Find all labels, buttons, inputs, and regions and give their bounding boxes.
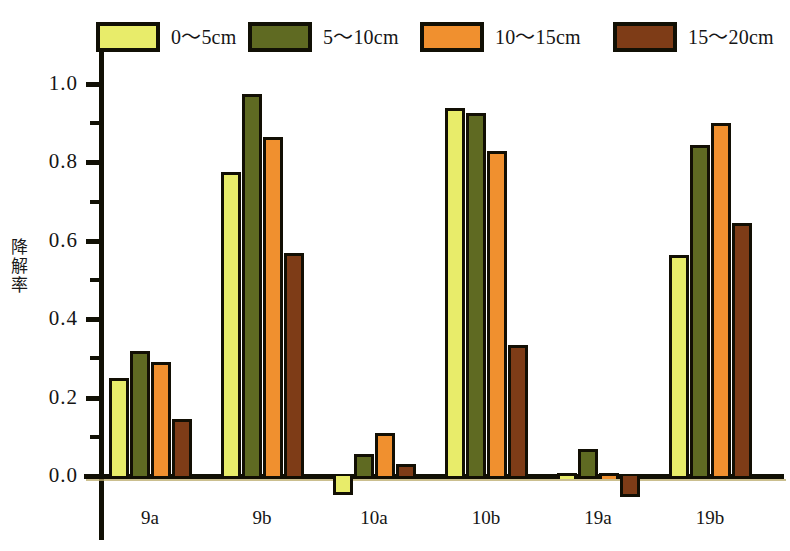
y-axis-tick-label-1.0: 1.0 bbox=[22, 73, 78, 94]
x-axis-tick-label-9a: 9a bbox=[110, 508, 190, 527]
bar bbox=[690, 145, 710, 479]
x-axis-tick-label-10a: 10a bbox=[334, 508, 414, 527]
y-axis-minor-tick bbox=[90, 121, 103, 125]
bar bbox=[487, 151, 507, 479]
x-axis-tick-label-9b: 9b bbox=[222, 508, 302, 527]
bar bbox=[151, 362, 171, 479]
bar bbox=[669, 255, 689, 479]
bar bbox=[172, 419, 192, 479]
y-axis-tick-label-0.0: 0.0 bbox=[22, 465, 78, 486]
bar bbox=[620, 476, 640, 497]
y-axis-minor-tick bbox=[90, 200, 103, 204]
bar bbox=[557, 473, 577, 479]
y-axis-tick-label-0.2: 0.2 bbox=[22, 387, 78, 408]
y-axis-tick-0.0 bbox=[86, 474, 104, 479]
bar bbox=[284, 253, 304, 479]
bar bbox=[242, 94, 262, 479]
y-axis-tick-label-0.8: 0.8 bbox=[22, 151, 78, 172]
x-axis-tick-label-19b: 19b bbox=[670, 508, 750, 527]
x-axis-tick-label-19a: 19a bbox=[558, 508, 638, 527]
y-axis-minor-tick bbox=[90, 435, 103, 439]
bar bbox=[508, 345, 528, 479]
bar bbox=[578, 449, 598, 479]
x-axis-tick-label-10b: 10b bbox=[446, 508, 526, 527]
bar bbox=[445, 108, 465, 479]
y-axis-minor-tick bbox=[90, 356, 103, 360]
y-axis-tick-0.6 bbox=[86, 239, 104, 244]
bar bbox=[109, 378, 129, 479]
y-axis-tick-0.8 bbox=[86, 160, 104, 165]
bar bbox=[333, 476, 353, 495]
y-axis-tick-label-0.6: 0.6 bbox=[22, 230, 78, 251]
bar bbox=[711, 123, 731, 479]
bar bbox=[599, 473, 619, 479]
bar-chart: 0～5cm 5～10cm 10～15cm 15～20cm 降 解 率 0.00.… bbox=[0, 0, 790, 551]
plot-area: 0.00.20.40.60.81.09a9b10a10b19a19b bbox=[0, 0, 790, 551]
bar bbox=[354, 454, 374, 479]
bar bbox=[396, 464, 416, 479]
y-axis-tick-label-0.4: 0.4 bbox=[22, 308, 78, 329]
bar bbox=[466, 113, 486, 479]
bar bbox=[375, 433, 395, 479]
y-axis-minor-tick bbox=[90, 278, 103, 282]
y-axis-tick-1.0 bbox=[86, 82, 104, 87]
bar bbox=[263, 137, 283, 479]
y-axis-tick-0.4 bbox=[86, 317, 104, 322]
bar bbox=[221, 172, 241, 479]
y-axis-tick-0.2 bbox=[86, 396, 104, 401]
bar bbox=[732, 223, 752, 479]
bar bbox=[130, 351, 150, 479]
